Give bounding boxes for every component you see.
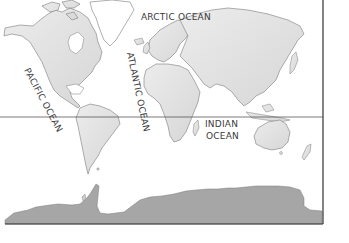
tasmania xyxy=(280,152,283,155)
world-map-svg: ARCTIC OCEAN PACIFIC OCEAN ATLANTIC OCEA… xyxy=(0,0,349,243)
indian-ocean-label-line1: INDIAN xyxy=(205,119,238,129)
world-map: ARCTIC OCEAN PACIFIC OCEAN ATLANTIC OCEA… xyxy=(0,0,349,243)
indian-ocean-label-line2: OCEAN xyxy=(206,131,239,141)
arctic-ocean-label: ARCTIC OCEAN xyxy=(141,12,211,22)
falkland-islands xyxy=(97,168,99,170)
